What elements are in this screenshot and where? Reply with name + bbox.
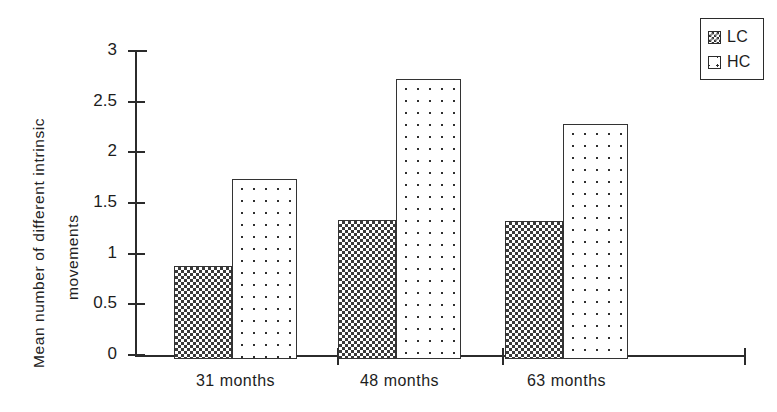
- legend-label-hc: HC: [727, 53, 751, 71]
- x-category-label-48: 48 months: [360, 372, 439, 390]
- y-axis-title-line-2: movements: [64, 214, 82, 300]
- bar-lc-63months: [505, 221, 563, 359]
- legend-label-lc: LC: [727, 28, 748, 46]
- y-tick-3: 3: [128, 50, 147, 52]
- legend-swatch-lc-icon: [708, 31, 721, 44]
- y-tick-0: 0: [128, 354, 145, 356]
- bar-lc-31months: [174, 266, 232, 359]
- y-tick-1: 1: [128, 253, 145, 255]
- y-tick-label: 2.5: [93, 90, 117, 110]
- y-tick-label: 1: [108, 242, 117, 262]
- y-tick-label: 0: [108, 344, 117, 364]
- plot-area: 00.511.522.53: [135, 46, 747, 361]
- legend: LC HC: [700, 18, 764, 80]
- y-tick-2.5: 2.5: [128, 101, 145, 103]
- legend-item-hc: HC: [708, 50, 763, 74]
- y-tick-label: 3: [108, 40, 117, 60]
- x-tick-2: [744, 348, 746, 365]
- bar-hc-48months: [396, 79, 461, 359]
- bar-hc-63months: [563, 124, 628, 359]
- y-tick-label: 0.5: [93, 293, 117, 313]
- chart-figure: Mean number of different intrinsic movem…: [0, 0, 777, 412]
- x-category-label-31: 31 months: [196, 372, 275, 390]
- x-tick-1: [502, 348, 504, 365]
- y-tick-label: 1.5: [93, 192, 117, 212]
- bar-hc-31months: [232, 179, 297, 359]
- x-category-label-63: 63 months: [527, 372, 606, 390]
- y-axis-title: Mean number of different intrinsic movem…: [0, 0, 92, 380]
- y-tick-label: 2: [108, 141, 117, 161]
- y-axis-title-line-1: Mean number of different intrinsic: [30, 118, 48, 368]
- y-tick-0.5: 0.5: [128, 303, 145, 305]
- legend-item-lc: LC: [708, 25, 763, 49]
- bar-lc-48months: [338, 220, 396, 359]
- legend-swatch-hc-icon: [708, 56, 721, 69]
- y-tick-2: 2: [128, 151, 145, 153]
- y-tick-1.5: 1.5: [128, 202, 145, 204]
